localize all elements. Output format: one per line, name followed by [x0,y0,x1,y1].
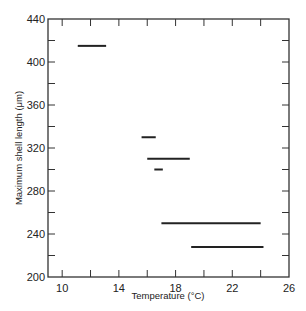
data-segments [78,46,264,247]
y-tick-label: 400 [27,56,45,68]
y-tick-label: 440 [27,13,45,25]
x-tick-label: 26 [283,282,295,294]
x-tick-label: 10 [56,282,68,294]
y-axis-title: Maximum shell length (μm) [13,91,24,205]
tick-labels: 1014182226200240280320360400440 [27,13,295,294]
x-axis-title: Temperature (°C) [132,290,205,301]
y-tick-label: 320 [27,142,45,154]
chart: 1014182226200240280320360400440 Temperat… [0,0,306,311]
x-tick-label: 22 [226,282,238,294]
y-tick-label: 240 [27,228,45,240]
y-tick-label: 360 [27,99,45,111]
y-tick-label: 280 [27,185,45,197]
plot-frame [48,19,289,277]
axis-ticks [48,19,289,277]
x-tick-label: 14 [113,282,125,294]
y-tick-label: 200 [27,271,45,283]
